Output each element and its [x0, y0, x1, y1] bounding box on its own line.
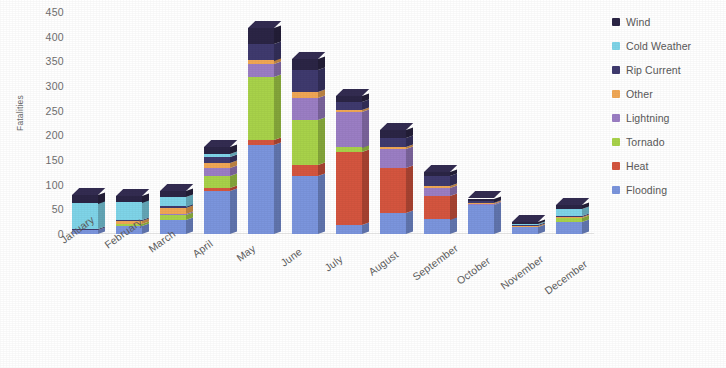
legend-swatch-icon: [612, 186, 620, 194]
legend-item[interactable]: Heat: [612, 154, 724, 178]
bar-segment[interactable]: [336, 110, 362, 112]
bar-segment[interactable]: [556, 216, 582, 217]
bar-segment[interactable]: [468, 201, 494, 203]
bar-segment[interactable]: [468, 205, 494, 234]
legend-item[interactable]: Rip Current: [612, 58, 724, 82]
stacked-bar[interactable]: [336, 96, 362, 234]
bar-segment[interactable]: [204, 176, 230, 188]
bar-group[interactable]: [330, 12, 374, 234]
bar-segment[interactable]: [424, 176, 450, 186]
bar-segment[interactable]: [292, 59, 318, 70]
bar-segment[interactable]: [556, 205, 582, 209]
bar-stack: [292, 59, 318, 234]
bar-group[interactable]: [198, 12, 242, 234]
bar-group[interactable]: [462, 12, 506, 234]
stacked-bar[interactable]: [248, 28, 274, 234]
bar-segment[interactable]: [380, 168, 406, 213]
bar-segment[interactable]: [204, 157, 230, 163]
bar-segment[interactable]: [292, 165, 318, 176]
stacked-bar[interactable]: [424, 172, 450, 234]
bar-group[interactable]: [550, 12, 594, 234]
bar-segment[interactable]: [248, 145, 274, 234]
bar-segment[interactable]: [204, 154, 230, 157]
bar-segment[interactable]: [424, 196, 450, 220]
bar-group[interactable]: [110, 12, 154, 234]
bar-segment[interactable]: [380, 149, 406, 168]
bar-segment[interactable]: [468, 203, 494, 204]
legend-item[interactable]: Wind: [612, 10, 724, 34]
legend-item[interactable]: Other: [612, 82, 724, 106]
bar-group[interactable]: [154, 12, 198, 234]
bar-segment[interactable]: [556, 217, 582, 218]
bar-segment[interactable]: [160, 215, 186, 220]
bar-segment[interactable]: [292, 70, 318, 92]
x-tick-label: May: [234, 242, 258, 264]
bar-segment[interactable]: [292, 176, 318, 234]
bar-segment[interactable]: [116, 196, 142, 203]
legend-item[interactable]: Lightning: [612, 106, 724, 130]
bar-segment[interactable]: [556, 218, 582, 222]
bar-segment[interactable]: [512, 224, 538, 225]
bar-segment[interactable]: [336, 147, 362, 152]
legend-item[interactable]: Flooding: [612, 178, 724, 202]
bar-segment[interactable]: [424, 219, 450, 234]
bar-segment[interactable]: [424, 172, 450, 176]
bar-segment-side-face: [186, 218, 193, 234]
bar-segment[interactable]: [336, 102, 362, 110]
bar-segment[interactable]: [160, 208, 186, 214]
bar-segment[interactable]: [336, 112, 362, 148]
stacked-bar[interactable]: [160, 191, 186, 234]
bar-segment[interactable]: [512, 227, 538, 234]
bar-group[interactable]: [66, 12, 110, 234]
bar-segment[interactable]: [380, 213, 406, 234]
bar-segment[interactable]: [248, 44, 274, 61]
bar-segment[interactable]: [336, 96, 362, 102]
legend-item[interactable]: Tornado: [612, 130, 724, 154]
bar-segment[interactable]: [556, 209, 582, 216]
stacked-bar[interactable]: [512, 222, 538, 234]
bar-segment[interactable]: [468, 204, 494, 205]
bar-segment[interactable]: [248, 140, 274, 145]
bar-segment[interactable]: [204, 147, 230, 154]
bar-segment[interactable]: [248, 28, 274, 44]
bar-segment[interactable]: [160, 197, 186, 207]
bar-segment[interactable]: [380, 138, 406, 147]
bar-group[interactable]: [242, 12, 286, 234]
stacked-bar[interactable]: [556, 205, 582, 234]
bar-segment[interactable]: [160, 191, 186, 197]
bar-segment[interactable]: [336, 152, 362, 225]
bar-segment[interactable]: [512, 225, 538, 226]
bar-segment[interactable]: [160, 206, 186, 208]
bar-group[interactable]: [418, 12, 462, 234]
bar-segment[interactable]: [292, 98, 318, 120]
legend-item[interactable]: Cold Weather: [612, 34, 724, 58]
bar-segment[interactable]: [248, 60, 274, 64]
stacked-bar[interactable]: [204, 147, 230, 234]
bar-segment[interactable]: [512, 222, 538, 224]
bar-group[interactable]: [506, 12, 550, 234]
bar-segment[interactable]: [72, 195, 98, 204]
bar-segment[interactable]: [556, 222, 582, 234]
bar-segment-side-face: [98, 201, 105, 229]
bar-segment[interactable]: [248, 77, 274, 140]
bar-segment[interactable]: [380, 147, 406, 149]
bar-segment[interactable]: [424, 186, 450, 188]
bar-segment[interactable]: [160, 214, 186, 215]
bar-segment[interactable]: [512, 226, 538, 227]
bar-segment[interactable]: [248, 64, 274, 77]
bar-group[interactable]: [286, 12, 330, 234]
bar-segment[interactable]: [424, 188, 450, 196]
bar-segment[interactable]: [336, 225, 362, 234]
bar-segment[interactable]: [468, 199, 494, 202]
stacked-bar[interactable]: [292, 59, 318, 234]
bar-segment[interactable]: [292, 120, 318, 165]
stacked-bar[interactable]: [468, 199, 494, 235]
bar-group[interactable]: [374, 12, 418, 234]
bar-segment[interactable]: [292, 92, 318, 98]
stacked-bar[interactable]: [380, 130, 406, 234]
bar-segment[interactable]: [204, 191, 230, 234]
bar-segment[interactable]: [204, 168, 230, 176]
bar-segment[interactable]: [204, 188, 230, 191]
bar-segment[interactable]: [380, 130, 406, 138]
bar-segment[interactable]: [204, 163, 230, 168]
